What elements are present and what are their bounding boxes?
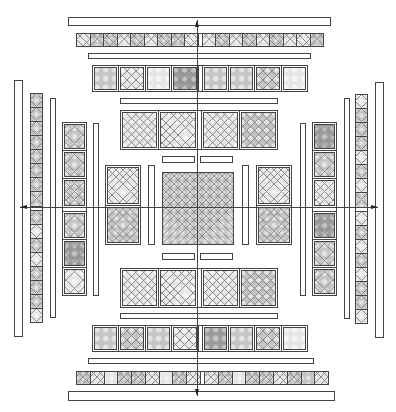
top-outer-bar [68, 17, 331, 26]
diamond-tile [356, 179, 367, 192]
diamond-tile [356, 254, 367, 267]
diamond-tile [104, 34, 117, 46]
diamond-tile [229, 66, 254, 91]
top-inner-bar-right [200, 156, 233, 163]
diamond-tile [63, 268, 86, 295]
diamond-tile [313, 268, 336, 295]
diamond-tile [356, 193, 367, 206]
arrow-left-line [20, 207, 197, 208]
mandala-diagram [0, 0, 396, 412]
arrowhead-up-icon [195, 20, 199, 27]
left-inner-bar [148, 165, 155, 245]
diamond-tile [31, 122, 42, 135]
center-square [162, 172, 234, 245]
diamond-tile [233, 372, 246, 384]
diamond-tile [119, 326, 144, 351]
diamond-tile [313, 240, 336, 267]
tile-gap [198, 111, 201, 149]
diamond-tile [257, 166, 291, 205]
tile-gap [199, 326, 202, 351]
bottom-outer-bar [68, 391, 335, 401]
arrowhead-right-icon [371, 205, 378, 209]
left-thin-bar-1 [50, 98, 56, 318]
right-side-tiles [256, 165, 292, 245]
diamond-tile [313, 179, 336, 206]
tile-gap [201, 372, 204, 384]
diamond-tile [93, 326, 118, 351]
diamond-tile [31, 309, 42, 322]
diamond-tile [356, 109, 367, 122]
top-inner-bar-left [162, 156, 195, 163]
diamond-tile [243, 34, 256, 46]
diamond-tile [356, 268, 367, 281]
tile-gap [63, 208, 86, 211]
diamond-tile [257, 206, 291, 245]
diamond-tile [356, 151, 367, 164]
left-thin-bar-2 [93, 123, 99, 296]
diamond-tile [106, 206, 140, 245]
diamond-tile [106, 166, 140, 205]
diamond-tile [158, 34, 171, 46]
tile-gap [199, 66, 202, 91]
diamond-tile [159, 111, 196, 149]
left-small-tiles [30, 93, 43, 323]
diamond-tile [315, 372, 328, 384]
arrow-down-line [197, 207, 198, 396]
diamond-tile [282, 66, 307, 91]
diamond-tile [203, 326, 228, 351]
diamond-tile [203, 66, 228, 91]
diamond-tile [270, 34, 283, 46]
diamond-tile [356, 165, 367, 178]
diamond-tile [63, 179, 86, 206]
diamond-tile [63, 240, 86, 267]
bottom-thin-bar-2 [120, 313, 278, 319]
diamond-tile [119, 66, 144, 91]
arrowhead-left-icon [20, 205, 27, 209]
diamond-tile [31, 211, 42, 224]
diamond-tile [77, 372, 90, 384]
diamond-tile [205, 372, 218, 384]
diamond-tile [145, 34, 158, 46]
bottom-small-tiles [76, 371, 329, 385]
bottom-inner-bar-right [200, 253, 233, 260]
diamond-tile [31, 239, 42, 252]
diamond-tile [146, 326, 171, 351]
diamond-tile [121, 111, 158, 149]
diamond-tile [356, 296, 367, 309]
diamond-tile [274, 372, 287, 384]
bottom-medium-tiles [92, 325, 308, 352]
diamond-tile [356, 137, 367, 150]
diamond-tile [173, 372, 186, 384]
diamond-tile [240, 269, 277, 307]
diamond-tile [121, 269, 158, 307]
diamond-tile [31, 108, 42, 121]
left-outer-bar [14, 80, 23, 337]
right-small-tiles [355, 94, 368, 324]
diamond-tile [160, 372, 173, 384]
diamond-tile [63, 212, 86, 239]
arrowhead-down-icon [195, 389, 199, 396]
diamond-tile [172, 326, 197, 351]
diamond-tile [31, 136, 42, 149]
diamond-tile [313, 151, 336, 178]
diamond-tile [288, 372, 301, 384]
diamond-tile [203, 34, 216, 46]
diamond-tile [356, 240, 367, 253]
diamond-tile [219, 372, 232, 384]
right-thin-bar-2 [300, 123, 306, 296]
diamond-tile [187, 372, 200, 384]
diamond-tile [132, 372, 145, 384]
diamond-tile [146, 372, 159, 384]
diamond-tile [31, 192, 42, 205]
diamond-tile [282, 326, 307, 351]
bottom-thin-bar-1 [88, 358, 314, 364]
bottom-large-tiles [120, 268, 278, 308]
diamond-tile [93, 66, 118, 91]
diamond-tile [31, 253, 42, 266]
right-medium-tiles [312, 122, 337, 296]
diamond-tile [311, 34, 324, 46]
arrow-up-line [197, 20, 198, 207]
diamond-tile [202, 269, 239, 307]
diamond-tile [159, 269, 196, 307]
diamond-tile [146, 66, 171, 91]
